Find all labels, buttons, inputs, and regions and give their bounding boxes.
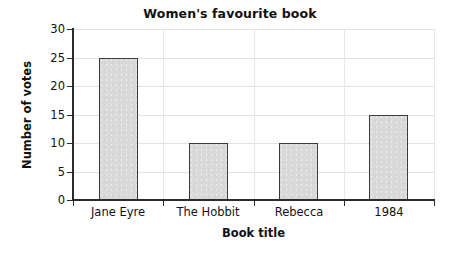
bar-chart: Women's favourite book Number of votes B… xyxy=(0,0,460,253)
y-axis-tick xyxy=(67,58,73,59)
y-axis-tick-label-text: 10 xyxy=(43,137,65,149)
bar xyxy=(99,58,138,201)
chart-title: Women's favourite book xyxy=(0,6,460,21)
x-axis-tick-label: The Hobbit xyxy=(163,205,253,219)
y-axis-tick-label: 20 xyxy=(41,80,65,92)
y-axis-tick-label: 15 xyxy=(41,109,65,121)
bar xyxy=(279,143,318,200)
y-axis-tick-label: 10 xyxy=(41,137,65,149)
y-axis-tick-label: 5 xyxy=(41,166,65,178)
gridline-vertical xyxy=(434,29,435,200)
y-axis-tick-label: 30 xyxy=(41,23,65,35)
y-axis-tick xyxy=(67,115,73,116)
y-axis-tick-label: 25 xyxy=(41,52,65,64)
y-axis-tick xyxy=(67,143,73,144)
plot-area xyxy=(73,29,434,200)
y-axis-tick xyxy=(67,172,73,173)
y-axis-title: Number of votes xyxy=(16,29,38,200)
y-axis-tick-label: 0 xyxy=(41,194,65,206)
y-axis-tick xyxy=(67,29,73,30)
bar xyxy=(189,143,228,200)
y-axis-tick-label-text: 0 xyxy=(43,194,65,206)
x-axis-tick-label: Jane Eyre xyxy=(73,205,163,219)
y-axis-tick-label-text: 5 xyxy=(43,166,65,178)
y-axis-title-text: Number of votes xyxy=(20,61,34,169)
gridline-vertical xyxy=(254,29,255,200)
y-axis-tick-label-text: 25 xyxy=(43,52,65,64)
y-axis-tick xyxy=(67,86,73,87)
gridline-vertical xyxy=(163,29,164,200)
x-axis-title: Book title xyxy=(73,226,434,240)
gridline-vertical xyxy=(344,29,345,200)
y-axis-tick-label-text: 20 xyxy=(43,80,65,92)
y-axis-tick-label-text: 15 xyxy=(43,109,65,121)
x-axis-tick xyxy=(434,201,435,206)
bar xyxy=(369,115,408,201)
x-axis-tick-label: Rebecca xyxy=(254,205,344,219)
x-axis-tick-label: 1984 xyxy=(344,205,434,219)
y-axis-tick-label-text: 30 xyxy=(43,23,65,35)
